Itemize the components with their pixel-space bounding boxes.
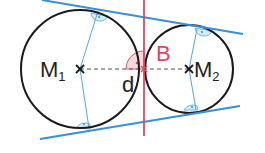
top-tangent-line (42, 0, 243, 34)
right-angle-dot (201, 31, 203, 33)
right-angle-dot (98, 16, 100, 18)
label-M2: M2 (194, 57, 220, 84)
right-angle-dot (83, 123, 85, 125)
bottom-tangent-line (40, 106, 240, 139)
radius-c1-bottom (80, 69, 89, 128)
label-B: B (156, 41, 171, 66)
label-M1: M1 (40, 57, 66, 84)
right-angle-dot (191, 106, 193, 108)
tangent-circles-diagram: M1 M2 B d (0, 0, 265, 153)
label-d: d (122, 72, 134, 97)
radius-c1-top (80, 11, 98, 69)
